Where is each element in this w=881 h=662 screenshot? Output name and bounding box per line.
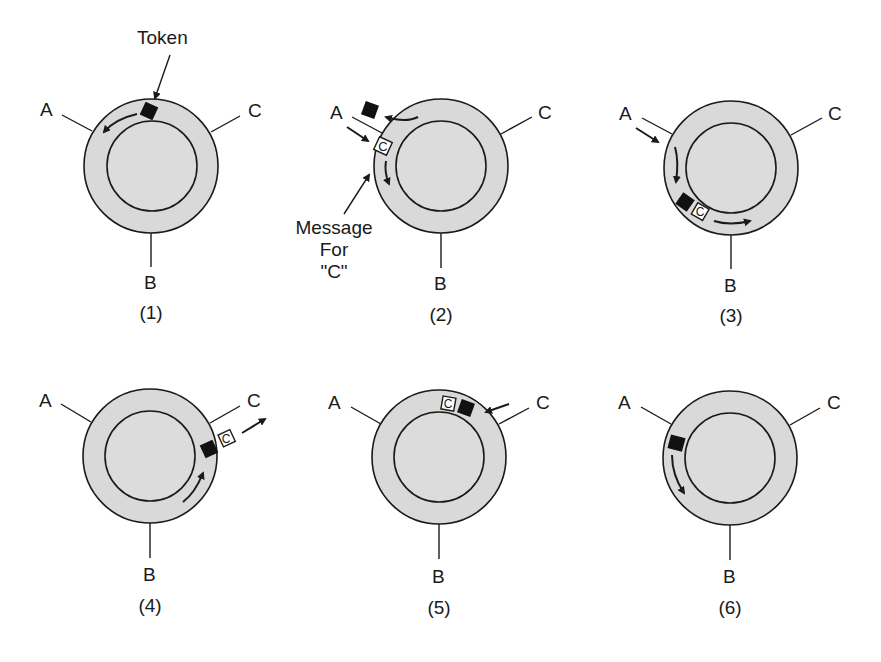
message-frame-letter: C <box>696 205 705 219</box>
token-in-arrow-icon <box>486 404 509 412</box>
message-frame-letter: C <box>444 397 453 411</box>
panel-4: C A C B (4) <box>0 360 293 662</box>
station-a-label: A <box>39 391 52 410</box>
station-c-label: C <box>247 391 261 410</box>
station-a-label: A <box>40 100 53 119</box>
token-label: Token <box>137 28 188 47</box>
message-pointer-arrow <box>344 175 369 214</box>
panel-6: A C B (6) <box>580 360 873 662</box>
message-in-arrow-icon <box>347 127 368 141</box>
station-c-label: C <box>827 393 841 412</box>
station-c-label: C <box>536 393 550 412</box>
ring-inner <box>686 123 776 213</box>
station-b-label: B <box>724 276 737 295</box>
token-icon <box>361 101 379 119</box>
station-b-label: B <box>144 273 157 292</box>
station-a-label: A <box>619 104 632 123</box>
station-c-label: C <box>538 103 552 122</box>
ring-inner <box>394 412 484 502</box>
station-a-label: A <box>330 103 343 122</box>
message-frame-letter: C <box>222 432 231 446</box>
message-label: Message For "C" <box>295 217 372 283</box>
panel-5: C A C B (5) <box>290 360 583 662</box>
station-a-label: A <box>618 393 631 412</box>
station-b-label: B <box>143 565 156 584</box>
message-frame-letter: C <box>378 139 387 154</box>
message-out-arrow-icon <box>242 419 265 433</box>
token-in-arrow-icon <box>636 128 658 142</box>
ring-inner <box>105 411 195 501</box>
panel-caption: (2) <box>429 305 452 324</box>
panel-caption: (5) <box>427 598 450 617</box>
token-pointer-arrow <box>155 55 170 98</box>
panel-caption: (1) <box>139 303 162 322</box>
panel-caption: (3) <box>719 306 742 325</box>
panel-caption: (4) <box>138 596 161 615</box>
panel-2: C A C Message For "C" B (2) <box>290 0 583 331</box>
ring-inner <box>107 121 197 211</box>
station-c-label: C <box>248 101 262 120</box>
station-b-label: B <box>723 567 736 586</box>
station-a-label: A <box>328 393 341 412</box>
station-b-label: B <box>434 274 447 293</box>
ring-inner <box>396 121 486 211</box>
station-c-label: C <box>828 104 842 123</box>
panel-caption: (6) <box>718 598 741 617</box>
panel-1: Token A C B (1) <box>0 0 293 331</box>
token-ring-figure: Token A C B (1) C <box>0 0 881 662</box>
station-b-label: B <box>432 567 445 586</box>
panel-3: C A C B (3) <box>580 0 873 331</box>
ring-inner <box>685 413 775 503</box>
